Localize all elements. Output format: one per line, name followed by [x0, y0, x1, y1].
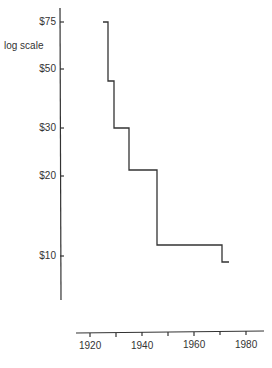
chart-canvas — [0, 0, 272, 368]
y-label-10: $10 — [18, 250, 56, 261]
x-label-1920: 1920 — [79, 340, 101, 351]
log-scale-note: log scale — [4, 40, 43, 51]
x-axis — [76, 331, 264, 333]
x-label-1960: 1960 — [183, 339, 205, 350]
x-label-1980: 1980 — [235, 339, 257, 350]
y-label-20: $20 — [18, 170, 56, 181]
y-label-50: $50 — [18, 63, 56, 74]
y-label-75: $75 — [18, 16, 56, 27]
y-label-30: $30 — [18, 122, 56, 133]
price-step-line — [103, 22, 229, 262]
x-label-1940: 1940 — [131, 340, 153, 351]
